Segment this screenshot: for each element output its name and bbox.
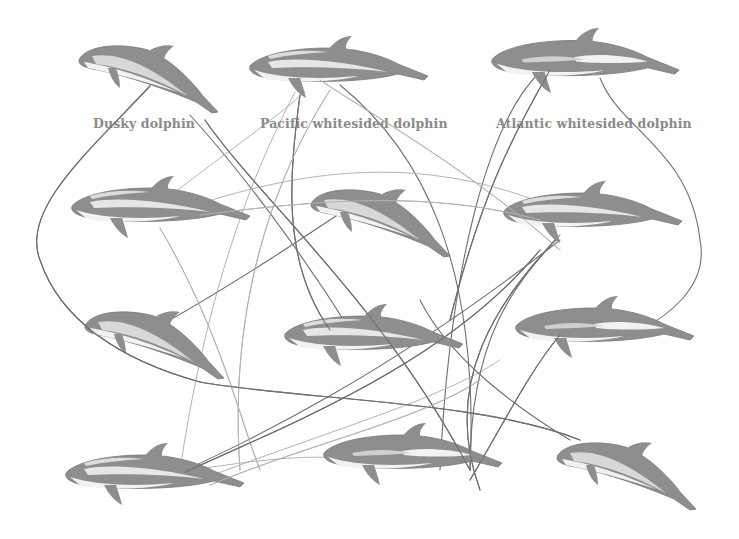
dolphin-unknown-4 bbox=[85, 311, 224, 379]
dolphin-reference-atlantic bbox=[492, 28, 679, 93]
dolphin-unknown-1 bbox=[72, 176, 250, 238]
dolphin-illustrations bbox=[0, 0, 739, 539]
dolphin-matching-worksheet: Dusky dolphin Pacific whitesided dolphin… bbox=[0, 0, 739, 539]
dolphin-reference-pacific bbox=[250, 36, 428, 98]
dolphin-unknown-5 bbox=[285, 304, 463, 366]
dolphin-unknown-8 bbox=[324, 423, 502, 485]
label-pacific-whitesided-dolphin: Pacific whitesided dolphin bbox=[260, 116, 448, 131]
label-dusky-dolphin: Dusky dolphin bbox=[93, 116, 195, 131]
dolphin-unknown-7 bbox=[66, 443, 244, 505]
label-atlantic-whitesided-dolphin: Atlantic whitesided dolphin bbox=[496, 116, 692, 131]
dolphin-unknown-3 bbox=[504, 181, 682, 243]
dolphin-unknown-9 bbox=[557, 442, 696, 510]
dolphin-unknown-2 bbox=[311, 189, 450, 257]
dolphin-reference-dusky bbox=[79, 45, 218, 113]
dolphin-unknown-6 bbox=[516, 296, 694, 358]
